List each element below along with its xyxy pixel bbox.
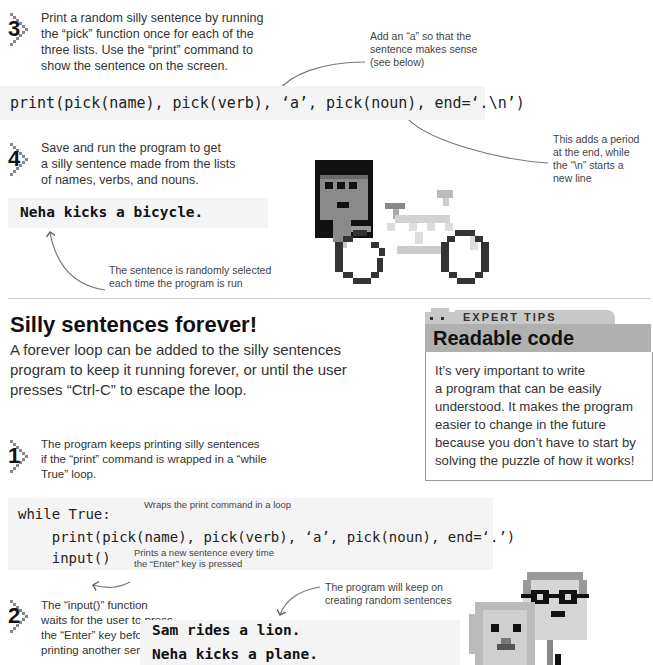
code-block-print: print(pick(name), pick(verb), ‘a’, pick(… [0, 86, 485, 120]
tip-label: EXPERT TIPS [463, 311, 557, 323]
output-line: Neha kicks a bicycle. [20, 204, 203, 220]
annotation-while: Wraps the print command in a loop [144, 498, 291, 511]
annotation-period: This adds a period at the end, while the… [553, 133, 653, 185]
step-description: Save and run the program to get a silly … [41, 140, 301, 188]
section-title: Silly sentences forever! [10, 312, 257, 338]
tip-title: Readable code [433, 327, 574, 350]
annotation-input: Prints a new sentence every time the “En… [134, 547, 274, 569]
annotation-keep-on: The program will keep on creating random… [325, 581, 452, 607]
annotation-random: The sentence is randomly selected each t… [109, 264, 309, 290]
output-block: Neha kicks a bicycle. [8, 198, 268, 228]
section-intro: A forever loop can be added to the silly… [10, 340, 410, 400]
output-line: Neha kicks a plane. [152, 646, 318, 662]
step-description: The program keeps printing silly sentenc… [41, 437, 321, 482]
code-line: print(pick(name), pick(verb), ‘a’, pick(… [10, 94, 525, 112]
output-line: Sam rides a lion. [152, 622, 300, 638]
code-line-while: while True: [18, 506, 111, 522]
output-block-loop: Sam rides a lion. Neha kicks a plane. [140, 620, 460, 665]
step-number: 1 [8, 443, 20, 469]
code-line-input: input() [18, 550, 111, 566]
tip-body: It’s very important to write a program t… [435, 362, 649, 470]
expert-tip-box: EXPERT TIPS Readable code It’s very impo… [425, 310, 651, 480]
tip-header: Readable code [425, 324, 651, 352]
step-2: 2 The “input()” function waits for the u… [0, 600, 160, 665]
section-divider [8, 298, 651, 299]
step-1: 1 The program keeps printing silly sente… [0, 440, 300, 490]
step-number: 4 [8, 146, 20, 172]
girl-bicycle-illustration [315, 160, 515, 290]
step-4: 4 Save and run the program to get a sill… [0, 135, 300, 195]
step-number: 2 [8, 603, 20, 629]
man-lion-illustration [465, 568, 605, 665]
code-line-print: print(pick(name), pick(verb), ‘a’, pick(… [18, 529, 515, 545]
